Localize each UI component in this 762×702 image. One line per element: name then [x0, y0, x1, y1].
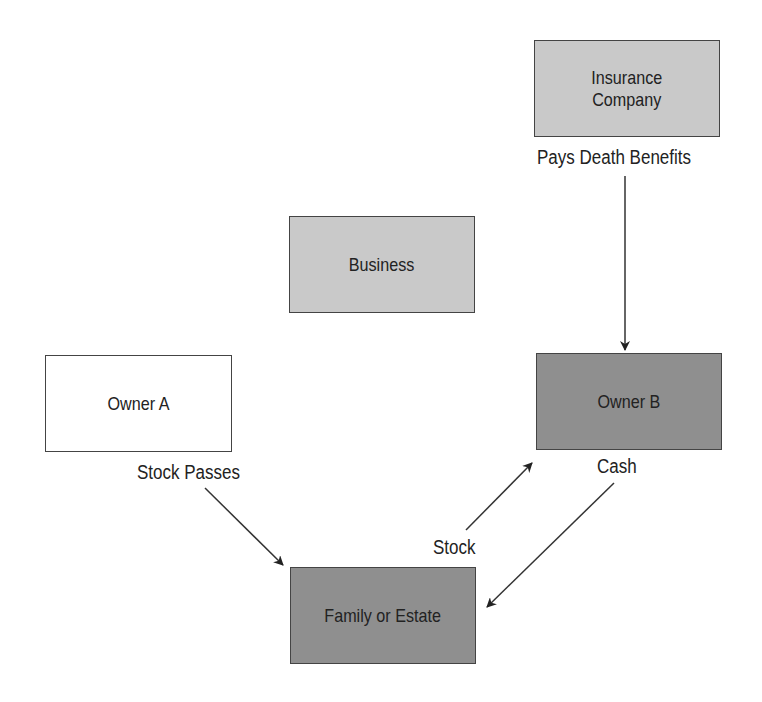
owner-b-label: Owner B — [598, 391, 661, 413]
family-or-estate-node: Family or Estate — [290, 567, 476, 664]
owner-b-node: Owner B — [536, 353, 722, 450]
cash-label: Cash — [597, 455, 637, 478]
pays-death-benefits-label: Pays Death Benefits — [537, 146, 691, 169]
insurance-company-node: Insurance Company — [534, 40, 720, 137]
stock-passes-label: Stock Passes — [137, 461, 240, 484]
owner-a-node: Owner A — [45, 355, 232, 452]
stock-label: Stock — [433, 536, 476, 559]
business-node: Business — [289, 216, 475, 313]
insurance-company-label: Insurance Company — [592, 67, 663, 111]
family-or-estate-label: Family or Estate — [325, 605, 442, 627]
business-label: Business — [349, 254, 415, 276]
arrow-family-to-owner-b — [466, 463, 532, 530]
arrow-owner-a-to-family — [205, 488, 283, 565]
arrow-owner-b-to-family — [487, 483, 614, 607]
owner-a-label: Owner A — [108, 393, 170, 415]
